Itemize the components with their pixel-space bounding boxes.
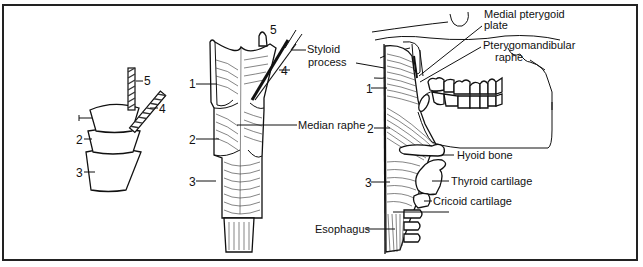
panel-c-label-2: 2 (367, 122, 374, 136)
tracheal-rings (404, 210, 422, 242)
teeth (428, 78, 502, 108)
panel-c-label-1: 1 (366, 82, 373, 96)
medial-pterygoid-label-line2: plate (484, 19, 508, 31)
panel-a-label-4: 4 (159, 102, 166, 116)
esophagus-label: Esophagus (315, 223, 371, 235)
panel-c-label-3: 3 (365, 176, 372, 190)
hyoid-bone-label: Hyoid bone (457, 149, 513, 161)
pharynx-outline (210, 40, 276, 218)
panel-a-label-5: 5 (144, 74, 151, 88)
styloid-process-label-line1: Styloid (307, 43, 340, 55)
pharyngeal-constrictors-figure: 2 3 4 5 (0, 0, 643, 267)
cricoid-cartilage-label: Cricoid cartilage (433, 195, 512, 207)
panel-a-label-2: 2 (76, 133, 83, 147)
median-raphe-label: Median raphe (298, 119, 365, 131)
panel-b-label-3: 3 (189, 175, 196, 189)
panel-b-label-2: 2 (189, 133, 196, 147)
cup-3 (86, 149, 141, 192)
thyroid-cartilage-label: Thyroid cartilage (451, 175, 532, 187)
mandible (418, 102, 552, 148)
panel-a-schematic: 2 3 4 5 (76, 68, 166, 192)
pterygomandibular-raphe-label-line1: Pterygomandibular (483, 39, 576, 51)
hyoid-bone (400, 144, 445, 156)
panel-b-label-4: 4 (281, 64, 288, 78)
panel-a-label-3: 3 (76, 166, 83, 180)
panel-c-lateral-view: process (308, 8, 576, 254)
pterygomandibular-raphe-label-line2: raphe (495, 51, 523, 63)
styloid-process-label-line2: process (308, 56, 347, 68)
panel-b-label-5: 5 (270, 23, 277, 37)
panel-b-label-1: 1 (189, 77, 196, 91)
